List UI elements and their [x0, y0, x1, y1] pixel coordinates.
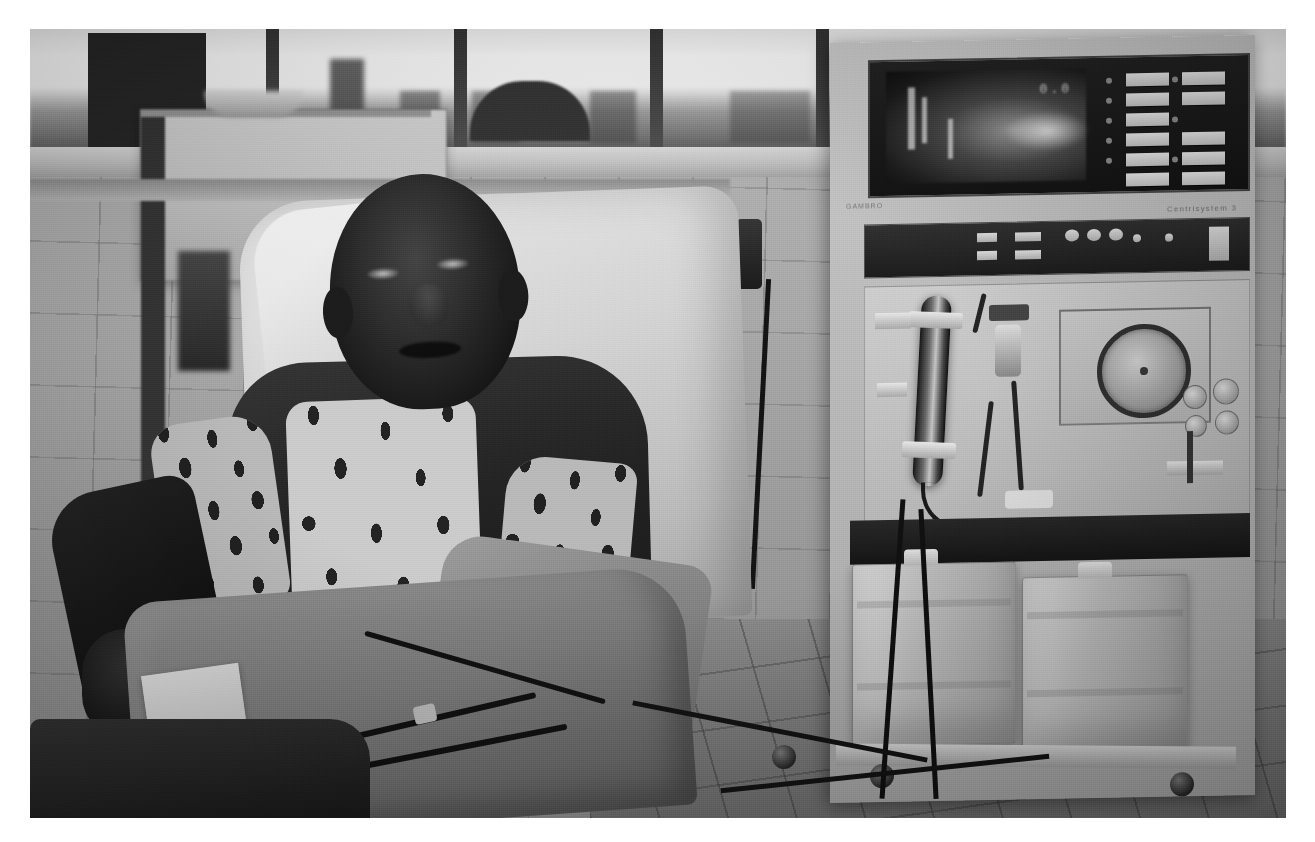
machine-side-label: GAMBRO [846, 202, 883, 210]
chair-seat [30, 719, 370, 818]
keypad-button[interactable] [1126, 93, 1169, 107]
keypad-button[interactable] [1182, 71, 1225, 85]
eye [436, 258, 469, 271]
keypad-button[interactable] [1126, 133, 1169, 147]
photograph-page: 0.0 [0, 0, 1315, 842]
panel-connector[interactable] [877, 383, 907, 398]
strip-lamp [1165, 233, 1173, 241]
wall-fixture [178, 251, 230, 371]
blood-pump-head[interactable] [1059, 307, 1211, 426]
container-neck [1078, 562, 1112, 579]
strip-lamp [1087, 229, 1101, 241]
module-slot [141, 209, 165, 301]
keypad-button[interactable] [1126, 113, 1169, 127]
screen-bargraph [922, 97, 927, 143]
panel-lever[interactable] [1167, 461, 1223, 476]
keypad-left-column[interactable] [1126, 73, 1169, 194]
strip-button[interactable] [1015, 250, 1041, 259]
keypad-led [1106, 158, 1112, 164]
pressure-knob[interactable] [1213, 378, 1239, 404]
keypad-button[interactable] [1126, 153, 1169, 167]
dialyzer-clamp[interactable] [902, 441, 957, 459]
container-ridge [1027, 687, 1183, 697]
line-clamp[interactable] [989, 304, 1029, 321]
screen-bargraph [948, 119, 953, 159]
strip-display [1209, 226, 1229, 260]
keypad-led [1106, 138, 1112, 144]
keypad-led [1106, 118, 1112, 124]
dialyzer-cartridge[interactable] [912, 296, 952, 487]
window-mullion [650, 29, 663, 153]
screen-bargraph [908, 87, 915, 149]
caster-wheel [1170, 772, 1194, 796]
keypad-led [1172, 156, 1178, 162]
hemodialysis-machine[interactable]: 0.0 [830, 35, 1255, 803]
screen-glow [1004, 110, 1090, 152]
keypad-right-column[interactable] [1182, 71, 1225, 192]
strip-button[interactable] [977, 233, 997, 242]
machine-brand-label: Centrisystem 3 [1167, 203, 1237, 213]
keypad-led [1106, 78, 1112, 84]
keypad-led [1172, 116, 1178, 122]
luer-connector [1005, 490, 1053, 509]
keypad-button[interactable] [1182, 131, 1225, 145]
mouth [399, 340, 462, 359]
dialyzer-clamp[interactable] [908, 311, 963, 329]
strip-lamp [1133, 234, 1141, 242]
keypad-button[interactable] [1126, 173, 1169, 187]
container-ridge [857, 681, 1011, 691]
panel-rod [1187, 431, 1193, 483]
concentrate-container[interactable] [1022, 574, 1188, 755]
panel-connector[interactable] [875, 313, 911, 330]
kidney-dish [205, 91, 303, 117]
module-slot [141, 301, 165, 393]
container-ridge [1027, 609, 1183, 619]
keypad-button[interactable] [1126, 73, 1169, 87]
pressure-knob[interactable] [1215, 410, 1239, 434]
rotor-hub [1140, 367, 1148, 375]
pump-rotor[interactable] [1097, 323, 1191, 419]
floor-caster [772, 745, 796, 769]
keypad-button[interactable] [1182, 151, 1225, 165]
window-mullion [816, 29, 829, 153]
keypad-button[interactable] [1182, 91, 1225, 105]
eye [367, 267, 400, 280]
keypad-led [1172, 76, 1178, 82]
monitor-screen: 0.0 [886, 68, 1086, 184]
drip-chamber[interactable] [995, 324, 1021, 376]
monitor-reading: 0.0 [1040, 80, 1072, 96]
strip-lamp [1109, 228, 1123, 240]
strip-button[interactable] [977, 251, 997, 260]
window-mullion [454, 29, 467, 153]
photograph-image: 0.0 [30, 29, 1286, 818]
monitor-bezel: 0.0 [868, 53, 1250, 198]
strip-lamp [1065, 229, 1079, 241]
nose [408, 283, 450, 329]
strip-button[interactable] [1015, 232, 1041, 241]
blood-tubing [1011, 380, 1024, 490]
keypad-led [1106, 98, 1112, 104]
control-strip[interactable] [864, 217, 1250, 278]
blood-tubing [972, 293, 987, 333]
container-ridge [857, 599, 1011, 609]
keypad-button[interactable] [1182, 171, 1225, 185]
